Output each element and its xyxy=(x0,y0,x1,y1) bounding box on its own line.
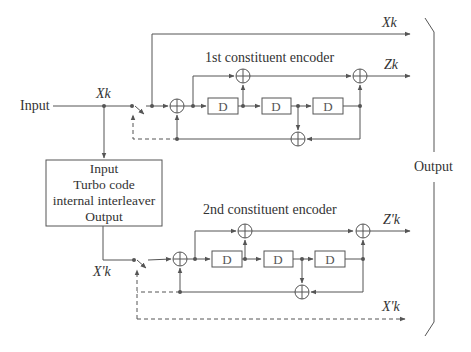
output-bracket-top xyxy=(425,18,434,152)
encoder1-title: 1st constituent encoder xyxy=(205,51,334,65)
xpk-output-label: X'k xyxy=(382,300,400,314)
svg-text:D: D xyxy=(222,252,231,267)
interleaver-text: Input Turbo code internal interleaver Ou… xyxy=(46,160,162,226)
svg-text:D: D xyxy=(271,99,280,114)
output-bracket-bottom xyxy=(425,182,434,336)
svg-text:D: D xyxy=(323,99,332,114)
xpk-switch-label: X'k xyxy=(93,265,111,279)
zpk-label: Z'k xyxy=(383,213,400,227)
output-label: Output xyxy=(414,160,453,174)
xk-output-line xyxy=(152,34,410,106)
encoder2-title: 2nd constituent encoder xyxy=(203,203,337,217)
input-label: Input xyxy=(20,99,50,113)
delay-label: D xyxy=(218,99,227,114)
xk-output-label: Xk xyxy=(382,16,397,30)
zk-label: Zk xyxy=(384,58,398,72)
svg-text:D: D xyxy=(273,252,282,267)
svg-text:D: D xyxy=(325,252,334,267)
switch1-blade xyxy=(135,106,144,114)
xk-input-label: Xk xyxy=(96,87,111,101)
